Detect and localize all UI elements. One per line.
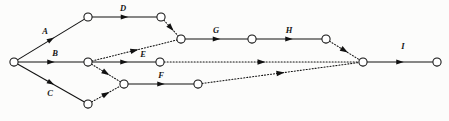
network-canvas: ABCDEFGHI — [0, 0, 449, 121]
arrowheads-layer — [46, 15, 403, 99]
edge-label-i: I — [400, 41, 405, 51]
edge-b-arrowhead — [47, 60, 55, 65]
edge-a-arrowhead — [46, 38, 54, 44]
node-a-end[interactable] — [84, 13, 92, 21]
edge-i-arrowhead — [396, 60, 404, 65]
node-b-end[interactable] — [84, 58, 92, 66]
edge-f-arrowhead — [157, 82, 165, 87]
edge-label-f: F — [157, 70, 164, 80]
convergence-node[interactable] — [359, 58, 367, 66]
finish-node[interactable] — [433, 58, 441, 66]
activity-network-diagram: ABCDEFGHI — [0, 0, 449, 121]
edge-d-arrowhead — [121, 15, 129, 20]
edges-layer — [18, 17, 433, 102]
edge-c-arrowhead — [47, 79, 55, 85]
node-g-end[interactable] — [248, 35, 256, 43]
edge-label-d: D — [119, 3, 126, 13]
edge-h-arrowhead — [285, 37, 293, 42]
dummy-edge-e-to-convergence-arrowhead — [258, 59, 266, 64]
node-f-end[interactable] — [194, 80, 202, 88]
node-c-end[interactable] — [84, 100, 92, 108]
edge-label-h: H — [285, 25, 293, 35]
dummy-edge-f-to-convergence-arrowhead — [276, 71, 284, 76]
nodes-layer — [10, 13, 441, 108]
node-h-end[interactable] — [322, 35, 330, 43]
dummy-edge-c-to-f-start-arrowhead — [101, 92, 109, 98]
dummy-edge-h-to-convergence-arrowhead — [340, 46, 348, 53]
start-node[interactable] — [10, 58, 18, 66]
edge-label-c: C — [47, 88, 53, 98]
dummy-edge-b-to-f-start-arrowhead — [101, 69, 109, 75]
edge-label-b: B — [51, 48, 58, 58]
edge-g-arrowhead — [213, 37, 221, 42]
node-g-start[interactable] — [177, 35, 185, 43]
edge-label-e: E — [139, 49, 146, 59]
dummy-edge-b-to-g-start-arrowhead — [130, 49, 138, 54]
edge-label-g: G — [213, 25, 220, 35]
node-e-end[interactable] — [156, 58, 164, 66]
edge-label-a: A — [41, 26, 48, 36]
node-d-end[interactable] — [157, 13, 165, 21]
edge-e-arrowhead — [120, 60, 128, 65]
node-f-start[interactable] — [120, 80, 128, 88]
